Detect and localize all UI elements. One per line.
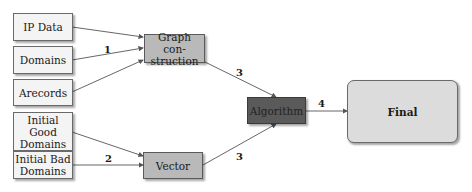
edge-label-2: 2 — [105, 153, 112, 164]
node-final: Final — [347, 80, 458, 143]
edge-label-3-vector: 3 — [236, 151, 243, 162]
node-label: Arecords — [19, 87, 67, 99]
node-algorithm: Algorithm — [247, 97, 306, 124]
node-label: Initial Bad Domains — [14, 153, 72, 177]
node-label: Final — [388, 106, 418, 118]
node-ip-data: IP Data — [13, 13, 73, 41]
node-label: Initial Good Domains — [20, 114, 66, 150]
node-label: Algorithm — [250, 105, 303, 117]
node-vector: Vector — [143, 152, 203, 179]
node-initial-good-domains: Initial Good Domains — [13, 112, 73, 151]
node-label: Vector — [156, 160, 190, 172]
node-domains: Domains — [13, 46, 73, 74]
edge-label-1: 1 — [104, 44, 111, 55]
edge-ipdata-graph — [72, 27, 143, 37]
node-label: IP Data — [23, 21, 63, 33]
edge-label-4: 4 — [318, 98, 325, 109]
edge-label-3-graph: 3 — [236, 67, 243, 78]
node-arecords: Arecords — [13, 79, 73, 106]
node-initial-bad-domains: Initial Bad Domains — [13, 151, 73, 179]
node-label: Graph con-struction — [149, 31, 200, 67]
node-graph-construction: Graph con-struction — [144, 34, 205, 63]
node-label: Domains — [20, 54, 66, 66]
edge-arecords-graph — [72, 60, 143, 92]
